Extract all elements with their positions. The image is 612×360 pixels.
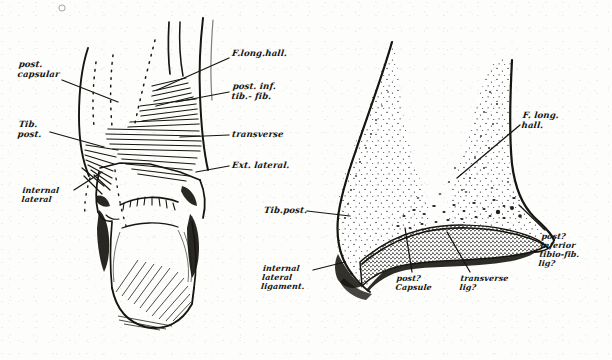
label-transverse-left-line-1: transverse xyxy=(232,130,285,140)
label-f-long-hall-left: F.long.hall. xyxy=(231,50,287,60)
label-post-inf-tib-fib-line-2: tib.- fib. xyxy=(231,92,272,102)
label-post-capsular-line-1: post. xyxy=(18,60,43,70)
anatomy-plate: post.capsularTib.post.internallateralF.l… xyxy=(0,0,612,360)
label-tib-post-right: Tib.post. xyxy=(263,207,307,217)
label-post-capsule: post?Capsule xyxy=(395,274,433,292)
label-post-inf-tib-fib-leader xyxy=(176,92,229,102)
label-post-inf-tib-fib: post. inf.tib.- fib. xyxy=(231,83,276,102)
label-post-capsular-line-2: capsular xyxy=(17,70,60,80)
label-tib-post-right-line-1: Tib.post. xyxy=(264,206,308,216)
left-figure-drawing xyxy=(59,5,213,330)
label-internal-lateral-line-2: lateral xyxy=(21,194,52,204)
label-tib-post-leader xyxy=(50,132,104,147)
label-post-capsular-leader xyxy=(62,80,118,102)
label-ext-lateral-leader xyxy=(196,166,229,172)
label-post-inferior-tibio-fib-lig: post?inferiortibio-fib.lig? xyxy=(538,232,582,268)
label-internal-lateral-ligament: internallateralligament. xyxy=(261,264,307,291)
label-ext-lateral-line-1: Ext. lateral. xyxy=(232,161,291,171)
label-f-long-hall-right-line-2: hall. xyxy=(521,121,544,131)
label-post-capsular: post.capsular xyxy=(17,61,61,80)
label-tib-post: Tib.post. xyxy=(17,121,43,140)
label-post-capsule-line-2: Capsule xyxy=(395,282,432,292)
label-internal-lateral-ligament-line-3: ligament. xyxy=(261,281,306,291)
label-f-long-hall-right-line-1: F. long. xyxy=(522,111,559,121)
illustration-canvas xyxy=(0,0,612,360)
label-tib-post-line-1: Tib. xyxy=(18,120,38,130)
label-f-long-hall-right: F. long.hall. xyxy=(521,112,559,131)
label-ext-lateral: Ext. lateral. xyxy=(231,162,290,172)
label-post-inf-tib-fib-line-1: post. inf. xyxy=(232,82,276,92)
label-transverse-lig-line-2: lig? xyxy=(459,282,477,292)
label-f-long-hall-left-line-1: F.long.hall. xyxy=(232,49,288,59)
label-transverse-lig: transverselig? xyxy=(459,274,509,292)
label-post-inferior-tibio-fib-lig-line-4: lig? xyxy=(538,258,556,268)
label-internal-lateral: internallateral xyxy=(21,186,60,204)
right-figure-drawing xyxy=(335,42,554,300)
label-tib-post-line-2: post. xyxy=(17,130,42,140)
label-transverse-left: transverse xyxy=(231,131,283,141)
label-f-long-hall-left-leader xyxy=(157,58,229,90)
